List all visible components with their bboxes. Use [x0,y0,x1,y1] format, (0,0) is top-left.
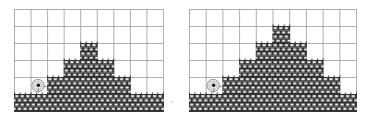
brick-row [222,77,340,94]
game-grid [189,9,357,112]
brick-row [239,60,324,77]
game-grid [14,9,164,112]
brick-row [256,43,307,60]
player-character-icon [32,79,46,92]
brick-row [273,26,291,43]
player-character-icon [207,79,221,92]
brick-row [189,94,357,112]
brick-row [80,43,98,60]
brick-row [14,94,164,112]
level-panel-left [14,9,164,112]
brick-row [64,60,115,77]
brick-row [47,77,131,94]
separator-dot [171,101,173,103]
level-panel-right [189,9,357,112]
